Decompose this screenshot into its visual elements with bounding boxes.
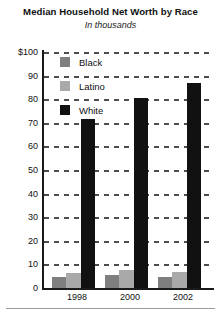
bar-latino-1998	[66, 273, 81, 288]
x-tick-2000: 2000	[109, 292, 151, 302]
x-axis-line	[42, 288, 214, 290]
legend-swatch-white-icon	[60, 105, 70, 115]
bottom-divider	[6, 308, 215, 309]
y-tick-60: 60	[4, 142, 38, 151]
y-axis-line	[42, 50, 44, 290]
y-tick-20: 20	[4, 237, 38, 246]
chart-figure: Median Household Net Worth by Race In th…	[0, 0, 221, 331]
y-tick-80: 80	[4, 95, 38, 104]
bar-white-2002	[187, 83, 201, 288]
legend-item-latino: Latino	[60, 80, 105, 92]
bar-black-1998	[52, 277, 66, 288]
legend-label-black: Black	[79, 57, 102, 68]
gridline-90	[44, 76, 214, 78]
page-title: Median Household Net Worth by Race	[0, 6, 221, 18]
x-tick-2002: 2002	[162, 292, 204, 302]
y-tick-40: 40	[4, 190, 38, 199]
bar-white-1998	[81, 119, 95, 288]
x-tick-1998: 1998	[56, 292, 98, 302]
legend-label-white: White	[79, 105, 103, 116]
bar-latino-2002	[172, 272, 187, 288]
y-tick-30: 30	[4, 213, 38, 222]
legend-swatch-latino-icon	[60, 81, 70, 91]
chart-subtitle: In thousands	[0, 19, 221, 31]
y-tick-10: 10	[4, 260, 38, 269]
y-tick-100: $100	[4, 48, 38, 57]
bar-latino-2000	[119, 270, 134, 288]
bar-white-2000	[134, 98, 148, 288]
y-tick-50: 50	[4, 166, 38, 175]
legend-label-latino: Latino	[79, 81, 105, 92]
y-tick-90: 90	[4, 72, 38, 81]
bar-black-2002	[158, 277, 172, 288]
legend-item-white: White	[60, 104, 103, 116]
bar-black-2000	[105, 275, 119, 288]
y-tick-70: 70	[4, 119, 38, 128]
chart-title-block: Median Household Net Worth by Race In th…	[0, 6, 221, 31]
gridline-100	[44, 52, 214, 54]
legend-item-black: Black	[60, 56, 102, 68]
y-tick-0: 0	[4, 284, 38, 293]
legend-swatch-black-icon	[60, 57, 70, 67]
